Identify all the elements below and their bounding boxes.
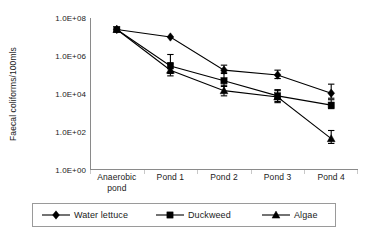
chart-figure: Faecal coliforms/100mls 1.0E+001.0E+021.… xyxy=(0,0,368,234)
x-axis-tick-labels: Anaerobic pondPond 1Pond 2Pond 3Pond 4 xyxy=(90,170,358,200)
legend-marker-triangle-icon xyxy=(261,209,291,221)
legend-item-duckweed: Duckweed xyxy=(155,204,231,226)
chart-legend: Water lettuceDuckweedAlgae xyxy=(32,203,336,227)
data-point xyxy=(328,89,335,97)
x-tick-label: Pond 2 xyxy=(194,172,254,183)
plot-svg xyxy=(90,18,358,170)
x-tick-label: Pond 1 xyxy=(140,172,200,183)
legend-row: Water lettuceDuckweedAlgae xyxy=(33,204,335,226)
legend-label: Water lettuce xyxy=(71,210,128,220)
x-tick-label: Pond 4 xyxy=(301,172,361,183)
data-point xyxy=(220,87,228,94)
y-tick-label: 1.0E+08 xyxy=(55,14,86,23)
legend-marker-square-icon xyxy=(155,209,185,221)
data-point xyxy=(167,33,174,41)
legend-item-water-lettuce: Water lettuce xyxy=(41,204,128,226)
data-point xyxy=(221,78,227,84)
legend-marker-diamond-icon xyxy=(41,209,71,221)
y-tick-label: 1.0E+02 xyxy=(55,128,86,137)
y-tick-label: 1.0E+06 xyxy=(55,52,86,61)
x-axis-separator xyxy=(357,170,358,174)
plot-area xyxy=(90,18,358,170)
data-point xyxy=(328,102,334,108)
legend-label: Duckweed xyxy=(185,210,231,220)
data-point xyxy=(327,135,335,142)
y-axis-title: Faecal coliforms/100mls xyxy=(6,34,20,154)
x-tick-label: Pond 3 xyxy=(248,172,308,183)
legend-item-algae: Algae xyxy=(261,204,318,226)
y-tick-label: 1.0E+00 xyxy=(55,166,86,175)
x-tick-label: Anaerobic pond xyxy=(87,172,147,193)
y-axis-tick-labels: 1.0E+001.0E+021.0E+041.0E+061.0E+08 xyxy=(30,0,86,234)
y-tick-label: 1.0E+04 xyxy=(55,90,86,99)
legend-label: Algae xyxy=(291,210,318,220)
data-point xyxy=(274,71,281,79)
